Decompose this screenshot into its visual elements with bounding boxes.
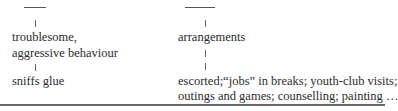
left-node-line-1: troublesome, [12, 30, 77, 45]
right-tick-3 [205, 63, 206, 70]
right-node-arrangements: arrangements [178, 30, 245, 45]
right-tick-1 [205, 20, 206, 27]
left-node-line-2: aggressive behaviour [12, 46, 118, 61]
left-tick-2 [35, 64, 36, 71]
left-top-connector [24, 7, 46, 8]
left-node-sniffs-glue: sniffs glue [12, 74, 64, 89]
bottom-rule [0, 104, 385, 106]
right-node-line-2: outings and games; counselling; painting… [178, 89, 398, 104]
right-tick-2 [205, 50, 206, 57]
right-node-line-1: escorted;“jobs” in breaks; youth-club vi… [178, 74, 397, 89]
right-top-connector [185, 7, 215, 8]
left-tick-1 [35, 20, 36, 27]
